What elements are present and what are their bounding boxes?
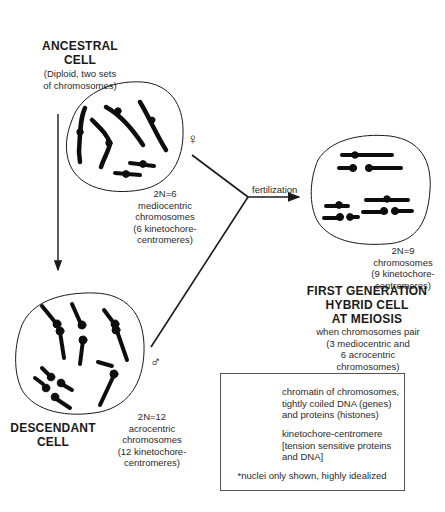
female-symbol-icon: ♀ xyxy=(187,131,198,146)
caption-line: (6 kinetochore- xyxy=(130,223,200,235)
caption-line: 2N=9 xyxy=(364,245,442,257)
ancestral-title-line2: CELL xyxy=(40,53,120,67)
ancestral-cell-title: ANCESTRAL CELL xyxy=(40,39,120,67)
descendant-cell-caption: 2N=12 acrocentric chromosomes (12 kineto… xyxy=(112,411,192,469)
subtitle-line: when chromosomes pair xyxy=(313,326,423,338)
subtitle-line: (3 mediocentric and xyxy=(313,338,423,350)
subtitle-line: 6 acrocentric xyxy=(313,349,423,361)
caption-line: chromosomes xyxy=(364,257,442,269)
hybrid-cell-title: FIRST GENERATION HYBRID CELL AT MEIOSIS xyxy=(302,284,432,326)
fertilization-label: fertilization xyxy=(252,184,297,195)
ancestral-title-line1: ANCESTRAL xyxy=(40,39,120,53)
legend-line: chromatin of chromosomes, xyxy=(282,386,399,398)
descendant-title-line1: DESCENDANT xyxy=(8,421,98,435)
legend-kinetochore-text: kinetochore-centromere [tension sensitiv… xyxy=(282,428,391,463)
ancestral-cell xyxy=(66,82,183,192)
caption-line: centromeres) xyxy=(130,234,200,246)
hybrid-title-line2: HYBRID CELL xyxy=(302,298,432,312)
hybrid-cell xyxy=(311,135,430,244)
caption-line: chromosomes xyxy=(130,211,200,223)
subtitle-line: chromosomes) xyxy=(313,361,423,373)
caption-line: acrocentric xyxy=(112,423,192,435)
mediocentric-chromosomes xyxy=(77,102,166,177)
legend-line: tightly coiled DNA (genes) xyxy=(282,398,399,410)
legend-note: *nuclei only shown, highly idealized xyxy=(220,470,404,482)
caption-line: 2N=12 xyxy=(112,411,192,423)
male-symbol-icon: ♂ xyxy=(150,354,161,369)
ancestral-subtitle-line2: of chromosomes) xyxy=(35,80,125,92)
descendant-title-line2: CELL xyxy=(8,435,98,449)
legend-line: [tension sensitive proteins xyxy=(282,440,391,452)
descendant-cell xyxy=(16,293,144,414)
legend-line: and DNA] xyxy=(282,451,391,463)
caption-line: chromosomes xyxy=(112,434,192,446)
caption-line: (9 kinetochore- xyxy=(364,268,442,280)
ancestral-subtitle-line1: (Diploid, two sets xyxy=(35,68,125,80)
legend-line: kinetochore-centromere xyxy=(282,428,391,440)
ancestral-cell-caption: 2N=6 mediocentric chromosomes (6 kinetoc… xyxy=(130,188,200,246)
caption-line: mediocentric xyxy=(130,200,200,212)
caption-line: (12 kinetochore- xyxy=(112,446,192,458)
ancestral-cell-subtitle: (Diploid, two sets of chromosomes) xyxy=(35,68,125,91)
caption-line: centromeres) xyxy=(112,457,192,469)
hybrid-cell-subtitle: when chromosomes pair (3 mediocentric an… xyxy=(313,326,423,372)
hybrid-chromosomes xyxy=(324,152,412,221)
legend-line: and proteins (histones) xyxy=(282,409,399,421)
acrocentric-chromosomes xyxy=(35,304,127,408)
hybrid-title-line1: FIRST GENERATION xyxy=(302,284,432,298)
hybrid-title-line3: AT MEIOSIS xyxy=(302,312,432,326)
descendant-cell-title: DESCENDANT CELL xyxy=(8,421,98,449)
caption-line: 2N=6 xyxy=(130,188,200,200)
legend-chromatin-text: chromatin of chromosomes, tightly coiled… xyxy=(282,386,399,421)
